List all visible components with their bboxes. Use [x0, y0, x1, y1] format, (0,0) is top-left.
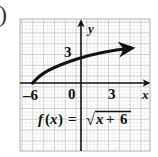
x-axis-label: x — [141, 87, 149, 102]
origin-label: 0 — [68, 86, 76, 102]
item-paren-marker: ) — [0, 1, 7, 27]
radicand-constant: 6 — [120, 111, 128, 127]
x-tick-label-3: 3 — [108, 86, 116, 102]
graph-svg: –6 0 3 3 y x f ( x ) = √ x + 6 ) — [0, 0, 158, 157]
formula-equals: = — [68, 111, 77, 127]
radicand-variable: x — [95, 111, 104, 127]
x-tick-label-minus6: –6 — [22, 87, 39, 103]
figure-panel: –6 0 3 3 y x f ( x ) = √ x + 6 ) — [0, 0, 158, 157]
y-tick-label-3: 3 — [64, 44, 72, 60]
formula-close-paren: ) — [58, 111, 63, 128]
grid-group — [20, 19, 150, 151]
formula-variable: x — [49, 111, 58, 127]
radical-sign: √ — [86, 111, 95, 128]
major-gridlines — [20, 19, 150, 151]
radicand-plus: + — [106, 111, 115, 127]
y-axis-label: y — [86, 21, 94, 36]
